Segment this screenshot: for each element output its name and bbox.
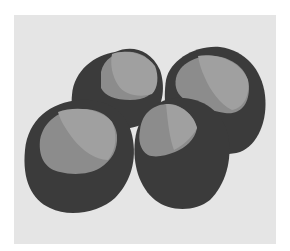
chestnuts-illustration <box>0 0 290 251</box>
chestnut-front-center <box>134 98 229 209</box>
chestnut-front-left <box>24 100 133 213</box>
